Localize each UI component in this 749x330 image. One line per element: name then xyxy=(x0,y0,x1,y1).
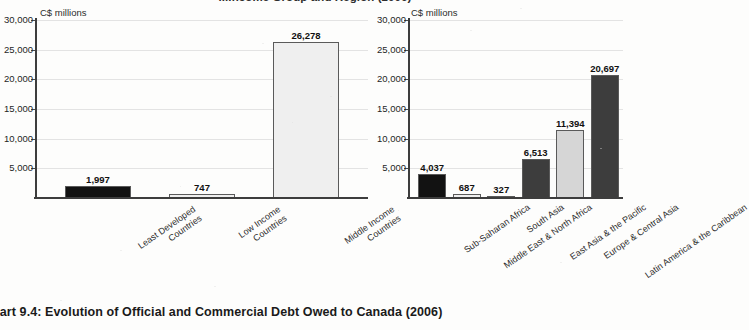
y-axis-tick-label: 20,000 xyxy=(0,73,33,84)
y-axis-line xyxy=(408,18,410,198)
y-axis-unit-label: C$ millions xyxy=(411,7,457,18)
y-axis-tick-label: 5,000 xyxy=(0,162,33,173)
plot-area-left: 1,99774726,278 xyxy=(36,20,368,198)
scan-artifact xyxy=(292,122,293,123)
scan-artifact xyxy=(60,300,62,301)
scan-artifact xyxy=(262,43,264,44)
y-axis-tick-label: 25,000 xyxy=(375,44,406,55)
bar-value-label: 6,513 xyxy=(524,147,548,158)
bar: 26,278 xyxy=(273,42,339,198)
x-axis-line xyxy=(34,197,368,199)
bar-value-label: 747 xyxy=(194,182,210,193)
y-axis-tick-label: 30,000 xyxy=(375,14,406,25)
bar-value-label: 20,697 xyxy=(590,63,619,74)
scan-artifact xyxy=(520,8,522,9)
x-axis-category-label: Low IncomeCountries xyxy=(237,204,289,249)
bar: 4,037 xyxy=(418,174,446,198)
y-axis-tick-label: 20,000 xyxy=(375,73,406,84)
figure-caption: hart 9.4: Evolution of Official and Comm… xyxy=(0,305,630,319)
scan-artifact xyxy=(214,286,216,287)
scan-artifact xyxy=(120,250,122,251)
y-axis-tick-label: 15,000 xyxy=(375,103,406,114)
bar-value-label: 4,037 xyxy=(420,162,444,173)
gridline xyxy=(36,20,368,21)
bar-value-label: 687 xyxy=(459,182,475,193)
y-axis-tick-label: 25,000 xyxy=(0,44,33,55)
gridline xyxy=(409,50,623,51)
scan-artifact xyxy=(560,262,562,263)
chart-region: C$ millions 4,0376873276,51311,39420,697… xyxy=(375,0,630,300)
bar-value-label: 26,278 xyxy=(291,30,320,41)
scan-artifact xyxy=(600,148,602,149)
bar-value-label: 1,997 xyxy=(86,174,110,185)
y-axis-tick-label: 15,000 xyxy=(0,103,33,114)
scan-artifact xyxy=(180,186,181,187)
y-axis-tick-label: 10,000 xyxy=(375,133,406,144)
scan-artifact xyxy=(398,210,399,211)
bar-value-label: 11,394 xyxy=(556,118,585,129)
y-axis-tick-label: 5,000 xyxy=(375,162,406,173)
bar-value-label: 327 xyxy=(493,184,509,195)
plot-area-right: 4,0376873276,51311,39420,697 xyxy=(409,20,623,198)
y-axis-tick-label: 30,000 xyxy=(0,14,33,25)
bar: 11,394 xyxy=(556,130,584,198)
chart-income-group: C$ millions 1,99774726,278 5,00010,00015… xyxy=(0,0,375,300)
x-axis-category-label: Least DevelopedCountries xyxy=(136,204,203,260)
x-axis-line xyxy=(407,197,623,199)
scan-artifact xyxy=(470,30,472,31)
gridline xyxy=(409,20,623,21)
bar: 20,697 xyxy=(591,75,619,198)
y-axis-line xyxy=(35,18,37,198)
y-axis-unit-label: C$ millions xyxy=(40,7,86,18)
bar: 6,513 xyxy=(522,159,550,198)
y-axis-tick-label: 10,000 xyxy=(0,133,33,144)
scan-artifact xyxy=(330,96,332,97)
